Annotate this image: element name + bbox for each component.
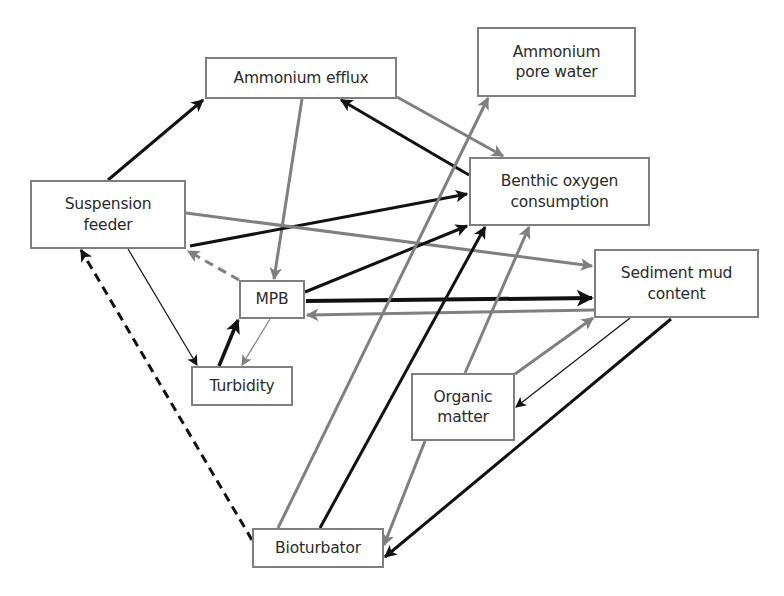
node-bioturbator: Bioturbator: [252, 528, 384, 568]
node-turbidity: Turbidity: [191, 366, 293, 406]
edge-suspension-feeder-to-ammonium-efflux: [108, 100, 203, 180]
edge-benthic-oxygen-consumption-to-ammonium-efflux: [341, 100, 469, 175]
edge-mpb-to-sediment-mud-content: [306, 298, 592, 301]
edge-mpb-to-benthic-oxygen-consumption: [305, 226, 467, 292]
node-benthic-oxygen-consumption: Benthic oxygen consumption: [469, 157, 650, 226]
edge-sediment-mud-content-to-mpb: [307, 310, 594, 315]
node-label: Suspension feeder: [65, 194, 152, 234]
node-label: Bioturbator: [275, 538, 361, 558]
node-mpb: MPB: [239, 280, 305, 319]
node-ammonium-pore-water: Ammonium pore water: [477, 27, 636, 97]
node-organic-matter: Organic matter: [411, 373, 515, 441]
edge-ammonium-efflux-to-mpb: [274, 99, 302, 279]
node-label: Sediment mud content: [621, 263, 732, 303]
edge-mpb-to-suspension-feeder: [188, 251, 239, 280]
node-label: Benthic oxygen consumption: [501, 171, 618, 211]
node-label: MPB: [256, 289, 289, 309]
node-label: Ammonium pore water: [513, 42, 601, 82]
node-label: Turbidity: [209, 376, 274, 396]
edge-suspension-feeder-to-turbidity: [128, 249, 197, 365]
edge-organic-matter-to-sediment-mud-content: [515, 318, 593, 374]
node-suspension-feeder: Suspension feeder: [30, 180, 186, 249]
edge-ammonium-efflux-to-benthic-oxygen-consumption: [397, 97, 503, 156]
node-label: Ammonium efflux: [233, 68, 368, 88]
node-label: Organic matter: [434, 387, 493, 427]
node-ammonium-efflux: Ammonium efflux: [205, 57, 397, 99]
node-sediment-mud-content: Sediment mud content: [594, 249, 759, 318]
edge-mpb-to-turbidity: [242, 319, 270, 365]
diagram-canvas: Ammonium effluxAmmonium pore waterSuspen…: [0, 0, 784, 596]
edge-turbidity-to-mpb: [219, 320, 238, 366]
